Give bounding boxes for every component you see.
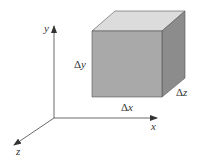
z-axis-label: z — [15, 145, 21, 157]
z-axis — [14, 118, 54, 145]
delta-y-label: Δy — [74, 58, 86, 70]
x-axis-label: x — [150, 120, 156, 132]
cube-front-face — [92, 31, 162, 97]
delta-z-label: Δz — [176, 86, 188, 98]
coordinate-cube-diagram: y x z Δy Δx Δz — [0, 0, 197, 159]
delta-x-label: Δx — [121, 101, 133, 113]
y-axis-label: y — [43, 22, 49, 34]
cube: Δy Δx Δz — [74, 11, 188, 113]
